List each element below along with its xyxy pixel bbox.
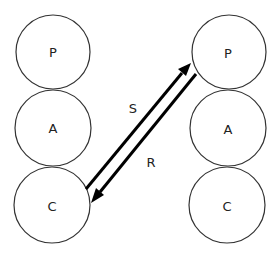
left-c-node: C — [14, 167, 90, 243]
right-p-node: P — [192, 15, 266, 89]
protocol-diagram: P A C P A C S R — [0, 0, 279, 255]
left-c-label: C — [47, 199, 56, 214]
right-a-label: A — [224, 122, 233, 137]
right-c-label: C — [222, 199, 231, 214]
left-p-node: P — [16, 15, 90, 89]
send-label: S — [129, 101, 137, 116]
right-a-node: A — [190, 90, 266, 166]
left-a-label: A — [49, 121, 58, 136]
left-stack: P A C — [14, 15, 91, 243]
right-stack: P A C — [189, 15, 266, 243]
right-p-label: P — [224, 46, 232, 61]
receive-label: R — [146, 155, 155, 170]
receive-arrow — [91, 74, 196, 203]
left-a-node: A — [15, 90, 91, 166]
right-c-node: C — [189, 167, 265, 243]
send-arrow — [86, 63, 191, 189]
left-p-label: P — [49, 45, 57, 60]
